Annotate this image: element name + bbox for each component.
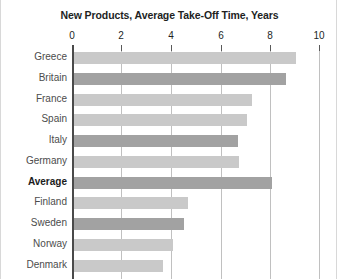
bar (74, 156, 239, 168)
x-axis-tick-label: 6 (218, 30, 224, 41)
category-label: Germany (1, 155, 67, 166)
category-label: Finland (1, 196, 67, 207)
x-axis-tick-label: 8 (267, 30, 273, 41)
tick-mark-10 (319, 45, 320, 51)
bar (74, 135, 238, 147)
chart-screenshot: New Products, Average Take-Off Time, Yea… (0, 0, 337, 279)
bar (74, 197, 188, 209)
category-label: Denmark (1, 259, 67, 270)
gridline-8 (270, 51, 271, 279)
bar (74, 239, 173, 251)
category-label: Norway (1, 238, 67, 249)
bar (74, 218, 184, 230)
x-axis-tick-label: 4 (168, 30, 174, 41)
bar (74, 260, 163, 272)
gridline-10 (319, 51, 320, 279)
plot-area: 0 2 4 6 8 10 GreeceBritainFranceSpainIta… (1, 0, 337, 279)
bar (74, 94, 252, 106)
category-label: Britain (1, 72, 67, 83)
x-axis-tick-label: 2 (118, 30, 124, 41)
tick-mark-8 (270, 45, 271, 51)
category-label: Sweden (1, 217, 67, 228)
category-label: Italy (1, 134, 67, 145)
bar (74, 73, 286, 85)
category-label: Average (1, 176, 67, 187)
bar (74, 52, 296, 64)
category-label: France (1, 93, 67, 104)
tick-mark-4 (171, 45, 172, 51)
category-label: Greece (1, 51, 67, 62)
tick-mark-6 (221, 45, 222, 51)
bar (74, 177, 272, 189)
bar (74, 114, 247, 126)
x-axis-tick-label: 0 (69, 30, 75, 41)
x-axis-tick-label: 10 (313, 30, 324, 41)
tick-mark-2 (121, 45, 122, 51)
category-label: Spain (1, 113, 67, 124)
